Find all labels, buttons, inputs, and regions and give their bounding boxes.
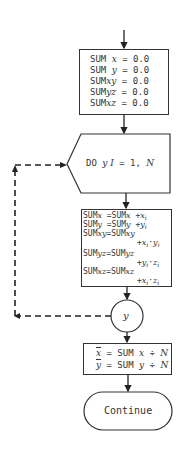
init-line-1: SUM x = 0.0 [90,54,149,65]
init-line-5: SUMxz = 0.0 [90,98,149,109]
connector-label: y [123,310,129,321]
mean-box: x = SUM x ÷ N y = SUM y ÷ N [83,343,172,375]
calc-box: SUMx =SUMx +xi SUMy =SUMy +yi SUMxy=SUMx… [81,209,172,287]
init-line-3: SUMxy = 0.0 [90,76,149,87]
init-line-2: SUM y = 0.0 [90,65,149,76]
calc-line-6: +yi·zi [137,258,159,269]
terminal-label: Continue [104,405,152,416]
init-box: SUM x = 0.0 SUM y = 0.0 SUMxy = 0.0 SUMy… [79,49,169,115]
loop-label: DO y I = 1, N [86,158,154,169]
mean-line-x: x = SUM x ÷ N [96,348,168,359]
init-line-4: SUMyz = 0.0 [90,87,149,98]
calc-line-8: +xi·zi [137,276,159,287]
calc-line-3: SUMxy=SUMxy [83,229,135,238]
calc-line-5: SUMyz=SUMyz [83,249,134,258]
mean-line-y: y = SUM y ÷ N [96,360,168,371]
calc-line-4: +xi·yi [137,238,160,249]
calc-line-7: SUMxz=SUMxz [83,267,134,276]
